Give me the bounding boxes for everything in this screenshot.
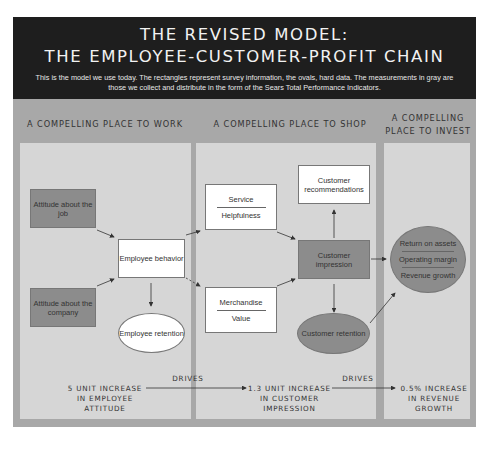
- footer-middle-line: 1.3 UNIT INCREASE: [242, 384, 337, 394]
- merchandise-label: Merchandise: [220, 298, 263, 307]
- value-label: Value: [232, 314, 251, 323]
- footer-left-line: 5 UNIT INCREASE: [60, 384, 150, 394]
- footer-middle-line: IN CUSTOMER: [242, 394, 337, 404]
- attitude-company-box: Attitude about the company: [30, 288, 96, 327]
- service-box: Service Helpfulness: [205, 184, 277, 230]
- footer-left: 5 UNIT INCREASE IN EMPLOYEE ATTITUDE: [60, 384, 150, 414]
- financial-oval: Return on assets Operating margin Revenu…: [390, 226, 466, 293]
- drives-label-2: DRIVES: [338, 374, 378, 384]
- merchandise-box: Merchandise Value: [205, 287, 277, 333]
- service-label: Service: [228, 195, 253, 204]
- customer-recommendations-box: Customer recommendations: [298, 165, 370, 204]
- footer-left-line: IN EMPLOYEE: [60, 394, 150, 404]
- operating-margin-label: Operating margin: [399, 255, 457, 264]
- footer-right-line: 0.5% INCREASE: [396, 384, 472, 394]
- footer-middle: 1.3 UNIT INCREASE IN CUSTOMER IMPRESSION: [242, 384, 337, 414]
- footer-left-line: ATTITUDE: [60, 404, 150, 414]
- footer-middle-line: IMPRESSION: [242, 404, 337, 414]
- employee-retention-oval: Employee retention: [118, 313, 185, 353]
- helpfulness-label: Helpfulness: [221, 211, 260, 220]
- divider: [217, 207, 266, 208]
- customer-impression-box: Customer impression: [298, 240, 370, 279]
- customer-retention-oval: Customer retention: [297, 313, 370, 354]
- divider: [402, 267, 454, 268]
- employee-behavior-box: Employee behavior: [118, 239, 185, 278]
- footer-right-line: IN REVENUE: [396, 394, 472, 404]
- attitude-job-box: Attitude about the job: [30, 189, 96, 228]
- footer-right: 0.5% INCREASE IN REVENUE GROWTH: [396, 384, 472, 414]
- footer-right-line: GROWTH: [396, 404, 472, 414]
- drives-label-1: DRIVES: [168, 374, 208, 384]
- return-on-assets-label: Return on assets: [400, 239, 457, 248]
- divider: [402, 251, 454, 252]
- revenue-growth-label: Revenue growth: [401, 271, 456, 280]
- divider: [217, 310, 266, 311]
